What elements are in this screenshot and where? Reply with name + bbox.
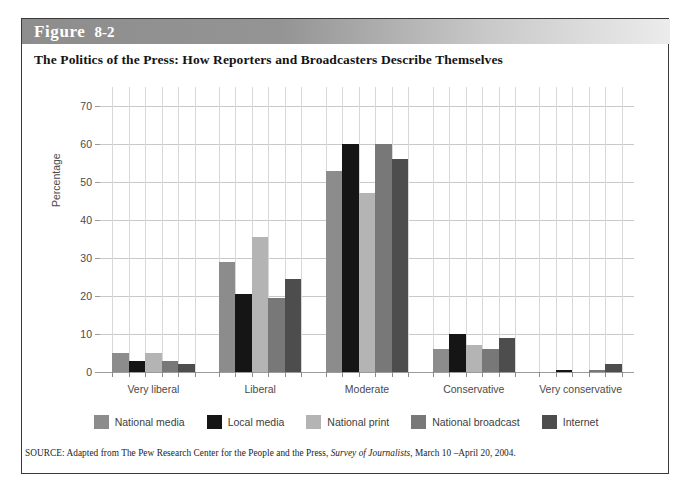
y-tick-label-50: 50	[52, 176, 92, 188]
bar-national-broadcast-conservative	[482, 349, 499, 372]
legend-swatch-icon	[411, 415, 426, 429]
legend-label: National media	[115, 416, 185, 428]
x-axis-label-moderate: Moderate	[345, 383, 389, 395]
y-tick-mark-30	[95, 258, 100, 259]
legend-item-national-print[interactable]: National print	[306, 415, 389, 429]
x-tick-mark	[375, 372, 376, 377]
x-axis-label-very-conservative: Very conservative	[539, 383, 622, 395]
x-tick-mark	[433, 372, 434, 377]
bar-local-media-moderate	[342, 144, 359, 372]
x-tick-mark	[285, 372, 286, 377]
x-tick-mark	[162, 372, 163, 377]
x-tick-mark	[342, 372, 343, 377]
legend-swatch-icon	[94, 415, 109, 429]
legend-item-national-broadcast[interactable]: National broadcast	[411, 415, 520, 429]
legend-swatch-icon	[306, 415, 321, 429]
figure-number-label: Figure8-2	[34, 22, 114, 42]
x-tick-mark	[178, 372, 179, 377]
x-tick-mark	[408, 372, 409, 377]
x-tick-mark	[112, 372, 113, 377]
x-tick-mark	[539, 372, 540, 377]
y-tick-label-20: 20	[52, 290, 92, 302]
source-publication: Survey of Journalists	[331, 448, 411, 458]
bar-internet-liberal	[285, 279, 302, 372]
y-tick-mark-10	[95, 334, 100, 335]
y-tick-label-60: 60	[52, 138, 92, 150]
y-tick-mark-50	[95, 182, 100, 183]
legend-label: Internet	[563, 416, 599, 428]
y-tick-label-10: 10	[52, 328, 92, 340]
bar-internet-conservative	[499, 338, 516, 372]
x-tick-mark	[466, 372, 467, 377]
bars-layer	[100, 87, 634, 372]
y-tick-label-40: 40	[52, 214, 92, 226]
y-tick-label-0: 0	[52, 366, 92, 378]
x-axis-label-very-liberal: Very liberal	[127, 383, 179, 395]
figure-number: 8-2	[94, 24, 114, 40]
bar-local-media-very-conservative	[556, 370, 573, 372]
source-note: SOURCE: Adapted from The Pew Research Ce…	[25, 448, 665, 458]
y-tick-mark-70	[95, 106, 100, 107]
bar-internet-moderate	[392, 159, 409, 372]
y-tick-label-70: 70	[52, 100, 92, 112]
legend-label: Local media	[228, 416, 285, 428]
y-tick-label-30: 30	[52, 252, 92, 264]
source-suffix: , March 10 –April 20, 2004.	[410, 448, 516, 458]
figure-root: Figure8-2 The Politics of the Press: How…	[0, 0, 692, 500]
x-tick-mark	[556, 372, 557, 377]
x-tick-mark	[195, 372, 196, 377]
legend-swatch-icon	[542, 415, 557, 429]
y-tick-mark-0	[95, 372, 100, 373]
x-tick-mark	[301, 372, 302, 377]
x-tick-mark	[268, 372, 269, 377]
legend-item-internet[interactable]: Internet	[542, 415, 599, 429]
bar-national-media-very-liberal	[112, 353, 129, 372]
x-tick-mark	[449, 372, 450, 377]
legend-label: National broadcast	[432, 416, 520, 428]
bar-local-media-conservative	[449, 334, 466, 372]
x-tick-mark	[235, 372, 236, 377]
gridline-y-0	[100, 372, 634, 373]
bar-internet-very-liberal	[178, 364, 195, 372]
legend-item-local-media[interactable]: Local media	[207, 415, 285, 429]
legend-swatch-icon	[207, 415, 222, 429]
x-tick-mark	[359, 372, 360, 377]
bar-national-media-conservative	[433, 349, 450, 372]
bar-national-print-liberal	[252, 237, 269, 372]
x-tick-mark	[392, 372, 393, 377]
x-tick-mark	[572, 372, 573, 377]
y-tick-mark-40	[95, 220, 100, 221]
bar-national-print-very-liberal	[145, 353, 162, 372]
x-tick-mark	[219, 372, 220, 377]
figure-word: Figure	[34, 22, 85, 41]
x-tick-mark	[515, 372, 516, 377]
legend-item-national-media[interactable]: National media	[94, 415, 185, 429]
x-tick-mark	[482, 372, 483, 377]
chart-plot-wrapper: Percentage 010203040506070 Very liberalL…	[52, 79, 652, 409]
figure-header-band: Figure8-2	[22, 19, 670, 44]
bar-national-broadcast-liberal	[268, 298, 285, 372]
x-tick-mark	[605, 372, 606, 377]
bar-national-media-liberal	[219, 262, 236, 372]
x-tick-mark	[622, 372, 623, 377]
x-tick-mark	[499, 372, 500, 377]
x-tick-mark	[129, 372, 130, 377]
x-tick-mark	[589, 372, 590, 377]
bar-internet-very-conservative	[605, 364, 622, 372]
source-prefix: SOURCE: Adapted from The Pew Research Ce…	[25, 448, 331, 458]
bar-national-broadcast-very-liberal	[162, 361, 179, 372]
chart-legend: National mediaLocal mediaNational printN…	[22, 415, 670, 429]
y-tick-mark-60	[95, 144, 100, 145]
figure-frame: Figure8-2 The Politics of the Press: How…	[21, 18, 669, 474]
x-tick-mark	[252, 372, 253, 377]
x-tick-mark	[326, 372, 327, 377]
plot-area	[100, 87, 634, 372]
bar-local-media-liberal	[235, 294, 252, 372]
figure-title: The Politics of the Press: How Reporters…	[34, 52, 649, 68]
bar-local-media-very-liberal	[129, 361, 146, 372]
x-tick-mark	[145, 372, 146, 377]
x-axis-label-liberal: Liberal	[244, 383, 276, 395]
x-axis-label-conservative: Conservative	[443, 383, 504, 395]
bar-national-media-moderate	[326, 171, 343, 372]
bar-national-print-moderate	[359, 193, 376, 372]
